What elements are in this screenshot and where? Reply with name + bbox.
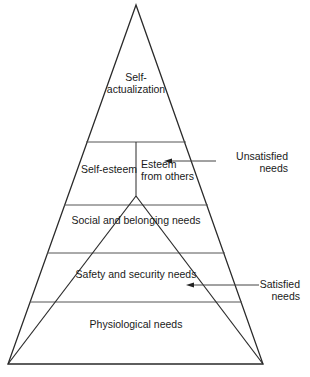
label-safety: Safety and security needs	[56, 268, 216, 280]
label-esteem-from-others: Esteem from others	[141, 158, 194, 182]
label-physiological: Physiological needs	[66, 318, 206, 330]
label-social: Social and belonging needs	[56, 214, 216, 226]
label-esteem-line1: Esteem	[141, 158, 194, 170]
annotation-unsatisfied-line1: Unsatisfied	[218, 150, 288, 162]
label-self-actualization: Self- actualization	[96, 71, 176, 95]
label-self-actualization-line2: actualization	[96, 83, 176, 95]
label-self-esteem: Self-esteem	[81, 163, 137, 175]
label-esteem-line2: from others	[141, 170, 194, 182]
annotation-unsatisfied: Unsatisfied needs	[218, 150, 288, 174]
annotation-satisfied-line1: Satisfied	[230, 278, 300, 290]
annotation-satisfied-line2: needs	[230, 290, 300, 302]
label-self-actualization-line1: Self-	[96, 71, 176, 83]
annotation-unsatisfied-line2: needs	[218, 162, 288, 174]
annotation-satisfied: Satisfied needs	[230, 278, 300, 302]
satisfied-arrowhead-icon	[186, 283, 194, 288]
